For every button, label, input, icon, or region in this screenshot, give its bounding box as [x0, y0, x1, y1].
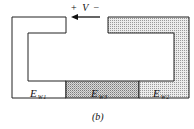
voltage-symbol: V	[82, 2, 88, 13]
voltage-arrow-head-icon	[71, 14, 78, 20]
ew2-label: EW2	[153, 84, 170, 100]
figure-caption: (b)	[92, 112, 104, 122]
voltage-label: + V −	[71, 3, 99, 13]
ew1-label: EW1	[30, 84, 47, 100]
conductor-diagram	[0, 0, 194, 129]
ew3-label: EW3	[91, 84, 108, 100]
voltage-minus: −	[94, 2, 100, 13]
voltage-plus: +	[71, 2, 77, 13]
